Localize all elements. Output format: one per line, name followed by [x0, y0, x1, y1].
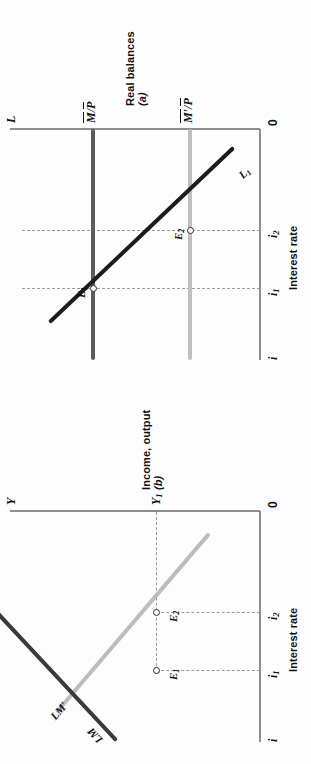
panel-a-x-axis-end-label: L [4, 116, 19, 123]
panel-b-ytick-i2: i2 [266, 612, 281, 620]
panel-a-x-axis [259, 129, 261, 360]
panel-b-origin-label: 0 [266, 501, 280, 508]
panel-b-point-e2 [153, 610, 160, 617]
panel-b-ytick-i1: i1 [266, 670, 281, 678]
panel-b-y-axis [10, 511, 260, 513]
panel-b-y-axis-end-label: i [266, 739, 281, 742]
panel-a-x-axis-title: Real balances (a) [124, 0, 149, 106]
panel-b-x-axis-title: Income, output (b) [140, 370, 165, 490]
panel-a-label-e1: E1 [75, 287, 89, 298]
panel-a-y-axis [10, 129, 260, 131]
panel-a-xtick-m-prime-over-p: M′/P [181, 98, 196, 123]
panel-b-y-axis-title: Interest rate [287, 608, 299, 672]
panel-b-label-e1: E1 [167, 669, 181, 680]
panel-b-x-axis [259, 511, 261, 742]
panel-a-origin-label: 0 [266, 119, 280, 126]
panel-a-ms-line-increased [188, 129, 192, 360]
panel-a-y-axis-title: Interest rate [287, 226, 299, 290]
panel-a-label-l1: L1 [236, 165, 253, 183]
panel-a-label-e2: E2 [172, 229, 186, 240]
panel-a-ms-line-initial [91, 129, 95, 360]
panel-a-y-axis-end-label: i [266, 357, 281, 360]
panel-a: L1 E1 E2 i1 i2 i 0 Interest rate M/P M′/… [0, 0, 311, 382]
figure-sheet: LM LM′ E1 E2 i1 i2 i 0 Interest rate Y1 … [0, 0, 311, 764]
panel-b-label-e2: E2 [167, 611, 181, 622]
panel-b-x-axis-end-label: Y [4, 498, 19, 505]
panel-a-ytick-i1: i1 [266, 288, 281, 296]
panel-b: LM LM′ E1 E2 i1 i2 i 0 Interest rate Y1 … [0, 382, 311, 764]
panel-a-guide-i1 [22, 288, 260, 289]
panel-b-curve-lm-prime [55, 532, 211, 713]
panel-a-ytick-i2: i2 [266, 230, 281, 238]
panel-a-xtick-m-over-p: M/P [84, 102, 99, 123]
panel-b-point-e1 [153, 668, 160, 675]
panel-b-xtick-y1: Y1 [149, 493, 164, 505]
